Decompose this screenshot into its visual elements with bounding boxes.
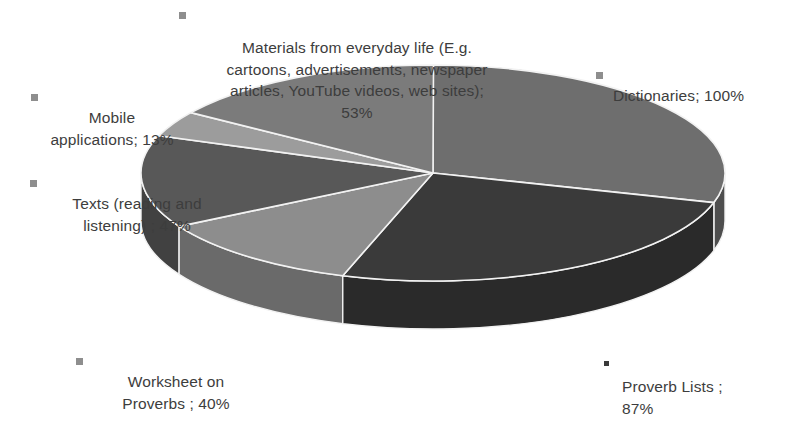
dictionaries-marker-icon	[596, 72, 603, 79]
proverb-lists-marker-icon	[600, 357, 613, 370]
slice-label-worksheet: Worksheet on Proverbs ; 40%	[88, 350, 264, 431]
materials-marker-icon	[179, 12, 186, 19]
pie-chart: Materials from everyday life (E.g. carto…	[0, 0, 808, 431]
slice-label-mobile-applications: Mobile applications; 13%	[22, 86, 202, 172]
worksheet-marker-icon	[76, 358, 83, 365]
slice-label-dictionaries: Dictionaries; 100%	[613, 64, 803, 128]
slice-label-proverb-lists: Proverb Lists ; 87%	[622, 355, 786, 431]
slice-label-texts: Texts (reading and listening) ; 47%	[44, 172, 230, 258]
texts-marker-icon	[30, 180, 37, 187]
slice-label-materials: Materials from everyday life (E.g. carto…	[196, 16, 518, 144]
